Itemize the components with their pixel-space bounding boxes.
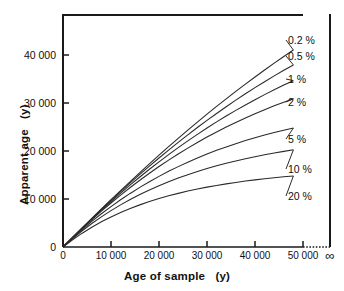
curve-10	[63, 150, 293, 247]
curve-20	[63, 176, 293, 247]
x-tick-marks	[111, 241, 303, 247]
y-tick-label-20000: 20 000	[8, 145, 56, 157]
y-tick-label-0: 0	[18, 241, 56, 253]
y-tick-label-30000: 30 000	[8, 97, 56, 109]
series-label-1-percent: 1 %	[288, 73, 306, 85]
x-tick-label-0: 0	[53, 250, 73, 261]
series-label-0-2-percent: 0.2 %	[288, 34, 315, 46]
series-label-0-5-percent: 0.5 %	[288, 50, 315, 62]
series-label-10-percent: 10 %	[288, 163, 312, 175]
x-tick-label-infinity: ∞	[320, 248, 340, 263]
series-label-5-percent: 5 %	[288, 133, 306, 145]
curve-2	[63, 99, 293, 247]
y-tick-label-40000: 40 000	[8, 49, 56, 61]
series-label-2-percent: 2 %	[288, 96, 306, 108]
curve-5	[63, 128, 293, 247]
curve-1	[63, 81, 293, 247]
x-axis-title: Age of sample (y)	[124, 270, 230, 282]
series-label-20-percent: 20 %	[288, 190, 312, 202]
y-tick-label-10000: 10 000	[8, 193, 56, 205]
data-curves	[63, 50, 293, 247]
